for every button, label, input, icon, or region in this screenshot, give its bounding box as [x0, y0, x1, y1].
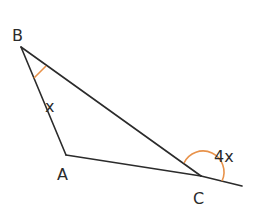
edge-AC [66, 155, 201, 176]
edge-AC-extension [201, 176, 242, 186]
vertex-label-A: A [57, 165, 68, 184]
angle-label-4x: 4x [214, 147, 234, 166]
vertex-label-C: C [193, 189, 204, 208]
triangle-diagram: B A C x 4x [0, 0, 260, 217]
triangle-edges [21, 47, 242, 186]
angle-label-x: x [45, 97, 54, 116]
vertex-label-B: B [12, 26, 23, 45]
angle-arc-B [34, 66, 46, 78]
